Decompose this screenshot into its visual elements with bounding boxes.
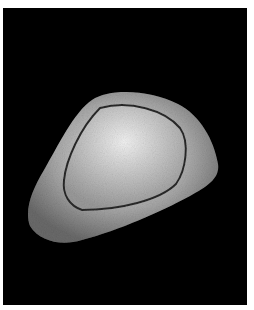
seed-image bbox=[0, 0, 254, 310]
